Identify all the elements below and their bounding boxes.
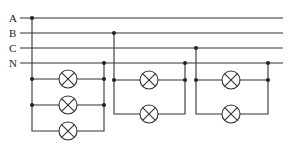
lamp-group-c (194, 46, 270, 123)
lamp-icon (59, 96, 77, 114)
line-label-c: C (9, 42, 16, 54)
line-label-b: B (9, 27, 16, 39)
lamp-icon (59, 70, 77, 88)
lamp-group-b (112, 31, 187, 123)
lamp-icon (140, 105, 158, 123)
lamp-icon (140, 71, 158, 89)
line-label-a: A (9, 12, 17, 24)
lamp-group-a (30, 16, 106, 140)
circuit-diagram: A B C N (0, 0, 294, 154)
line-label-n: N (9, 57, 17, 69)
lamp-icon (222, 71, 240, 89)
lamp-icon (59, 122, 77, 140)
lamp-icon (222, 105, 240, 123)
